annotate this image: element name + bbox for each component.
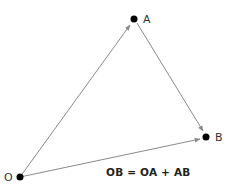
vector-diagram: A B O OB = OA + AB	[0, 0, 231, 192]
point-a-dot	[131, 16, 138, 23]
vector-diagram-svg	[0, 0, 231, 192]
vector-oa-arrow	[20, 25, 130, 177]
point-o-dot	[17, 174, 24, 181]
point-o-label: O	[4, 172, 13, 183]
point-b-dot	[203, 134, 210, 141]
vector-ab-arrow	[137, 23, 203, 131]
point-b-label: B	[215, 132, 223, 143]
point-a-label: A	[143, 14, 151, 25]
vector-equation: OB = OA + AB	[106, 167, 190, 178]
